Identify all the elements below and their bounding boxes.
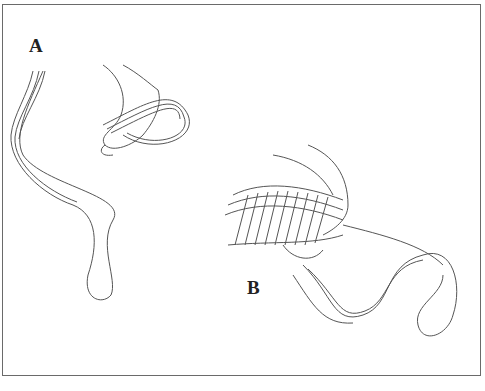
panel-b-wraps [235, 191, 328, 245]
panel-b-cords [225, 186, 457, 336]
figure-frame: A B [2, 4, 481, 376]
panel-a-hand [101, 65, 159, 155]
panel-a-cords [11, 71, 190, 300]
cord-coiling-illustration [3, 5, 482, 377]
